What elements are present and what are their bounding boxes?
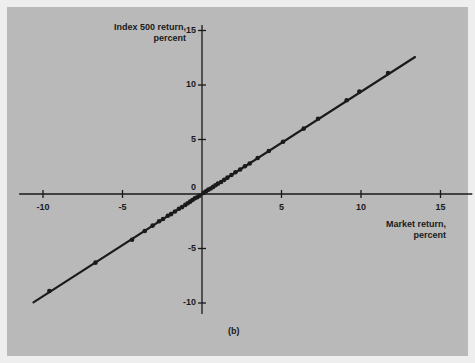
x-axis-label: Market return, percent: [345, 219, 446, 241]
data-point: [197, 193, 202, 198]
data-point: [150, 223, 155, 228]
data-point: [225, 175, 230, 180]
scatter-plot: [0, 0, 475, 363]
figure-container: Index 500 return, percent Market return,…: [0, 0, 475, 363]
x-tick-label: -10: [30, 202, 56, 212]
figure-caption: (b): [228, 326, 240, 336]
data-point: [301, 126, 306, 131]
data-point: [233, 170, 238, 175]
data-point: [266, 149, 271, 154]
x-tick-label: 5: [269, 202, 295, 212]
x-axis-label-line2: percent: [345, 230, 446, 241]
data-point: [243, 164, 248, 169]
data-point: [344, 98, 349, 103]
data-point: [47, 289, 52, 294]
data-point: [281, 139, 286, 144]
data-point: [247, 161, 252, 166]
data-point: [173, 209, 178, 214]
data-point: [142, 229, 147, 234]
data-point: [169, 212, 174, 217]
data-point: [93, 260, 98, 265]
y-tick-label: 5: [170, 134, 196, 144]
data-point: [130, 237, 135, 242]
y-axis-label-line2: percent: [86, 33, 186, 44]
data-point: [157, 219, 162, 224]
data-point: [238, 167, 243, 172]
y-tick-label: 0: [170, 182, 196, 192]
data-point: [316, 116, 321, 121]
data-point: [357, 89, 362, 94]
data-point: [386, 71, 391, 76]
x-tick-label: -5: [110, 202, 136, 212]
y-tick-label: -5: [170, 243, 196, 253]
x-tick-label: 10: [348, 202, 374, 212]
x-axis-label-line1: Market return,: [345, 219, 446, 230]
data-point: [255, 156, 260, 161]
y-tick-label: -10: [170, 297, 196, 307]
x-tick-label: 15: [428, 202, 454, 212]
y-tick-label: 15: [170, 25, 196, 35]
data-point: [161, 217, 166, 222]
data-point: [229, 173, 234, 178]
y-tick-label: 10: [170, 79, 196, 89]
